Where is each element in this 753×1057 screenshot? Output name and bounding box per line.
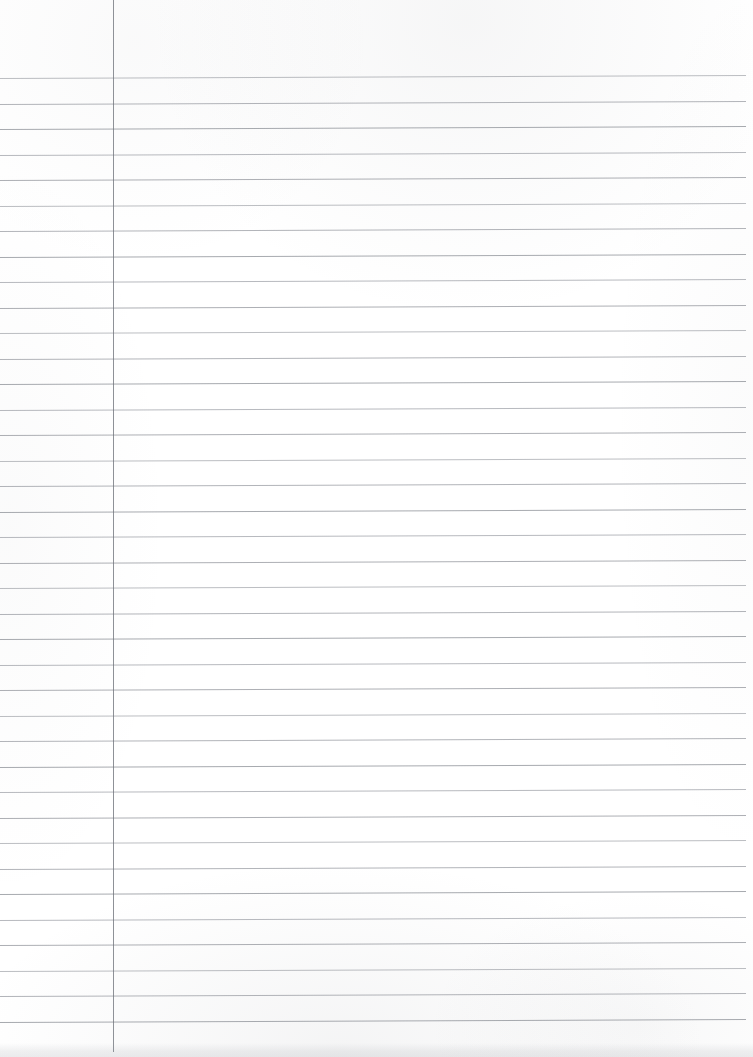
paper-sheet [0,0,753,1057]
margin-line-layer [0,0,753,1057]
vertical-margin-rule-line [113,0,114,1052]
